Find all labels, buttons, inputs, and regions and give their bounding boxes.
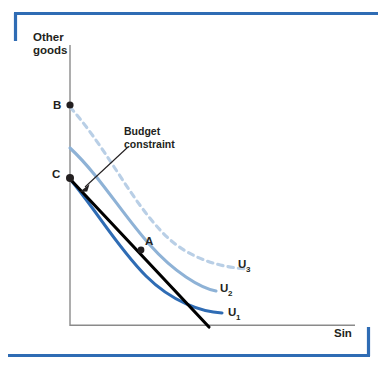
curve-label-u2-subscript: 2 — [228, 289, 233, 298]
indifference-curve-diagram: Other goods Sin Budget constraint B C A … — [0, 0, 382, 369]
y-axis-label-line1: Other — [33, 31, 64, 43]
point-b-label: B — [53, 99, 61, 111]
point-c-label: C — [52, 168, 60, 180]
axes — [70, 45, 355, 326]
budget-constraint-label-line2: constraint — [124, 138, 175, 150]
figure-container: Other goods Sin Budget constraint B C A … — [0, 0, 382, 369]
point-a-marker — [138, 247, 145, 254]
frame-decoration — [8, 13, 378, 356]
curve-u2 — [70, 148, 216, 291]
curve-label-u2: U 2 — [220, 282, 233, 298]
point-c-marker — [66, 174, 74, 182]
callout-arrowhead-icon — [80, 184, 90, 192]
x-axis-label: Sin — [334, 327, 352, 339]
curve-label-u1-subscript: 1 — [236, 313, 241, 322]
point-b-marker — [66, 101, 73, 108]
point-a-label: A — [145, 235, 153, 247]
y-axis-label-line2: goods — [33, 44, 68, 56]
curve-label-u3-subscript: 3 — [246, 265, 251, 274]
budget-constraint-label-line1: Budget — [124, 125, 161, 137]
curve-label-u3: U 3 — [238, 258, 251, 274]
curve-label-u1: U 1 — [228, 306, 241, 322]
